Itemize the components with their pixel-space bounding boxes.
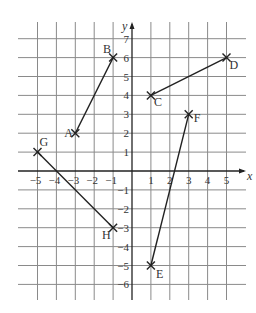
- point-label: G: [40, 135, 49, 149]
- point-label: E: [156, 267, 163, 281]
- x-axis-arrow-icon: [239, 169, 246, 174]
- y-tick-label: 4: [124, 89, 130, 101]
- point-label: C: [154, 95, 162, 109]
- point-B: B: [103, 42, 117, 62]
- x-tick-label: −2: [86, 174, 98, 186]
- y-tick-label: −1: [117, 184, 129, 196]
- x-tick-label: 4: [205, 174, 211, 186]
- point-D: D: [223, 54, 239, 72]
- x-tick-label: 1: [148, 174, 154, 186]
- x-tick-label: −4: [49, 174, 61, 186]
- y-tick-label: 5: [124, 71, 130, 83]
- point-G: G: [34, 135, 49, 156]
- x-axis-label: x: [246, 169, 253, 183]
- y-tick-label: 2: [124, 127, 130, 139]
- y-axis-arrow-icon: [130, 22, 135, 29]
- y-tick-label: 3: [124, 108, 130, 120]
- coordinate-grid-diagram: −5−4−3−2−1123457654321−1−2−3−4−5−6 ABCDE…: [0, 0, 256, 313]
- axes: [18, 22, 246, 300]
- y-tick-label: −6: [117, 278, 129, 290]
- y-tick-label: −2: [117, 203, 129, 215]
- point-label: D: [230, 58, 239, 72]
- x-tick-label: 5: [224, 174, 230, 186]
- point-label: A: [64, 126, 73, 140]
- x-tick-label: 3: [186, 174, 192, 186]
- x-tick-label: −5: [30, 174, 42, 186]
- y-tick-label: −4: [117, 241, 129, 253]
- x-tick-label: −1: [105, 174, 117, 186]
- point-label: H: [102, 228, 111, 242]
- y-tick-label: −3: [117, 222, 129, 234]
- y-tick-label: 1: [124, 146, 130, 158]
- y-tick-label: 7: [124, 33, 130, 45]
- point-label: F: [194, 111, 201, 125]
- point-H: H: [102, 224, 117, 242]
- y-axis-label: y: [121, 19, 128, 33]
- point-label: B: [103, 42, 111, 56]
- y-tick-label: 6: [124, 52, 130, 64]
- point-E: E: [147, 262, 163, 281]
- y-tick-label: −5: [117, 260, 129, 272]
